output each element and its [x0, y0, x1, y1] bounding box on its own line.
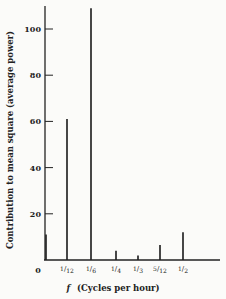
power-spectrum-chart: 20406080100 1/121/61/41/35/121/2 0 f (Cy…	[0, 0, 226, 299]
x-tick-label: 1/2	[178, 265, 188, 274]
spectral-bars	[46, 8, 183, 260]
y-tick-label: 100	[24, 24, 41, 34]
y-tick-label: 80	[30, 70, 42, 80]
x-axis-origin-label: 0	[35, 265, 41, 275]
y-axis-title: Contribution to mean square (average pow…	[5, 31, 15, 249]
y-tick-label: 40	[30, 163, 42, 173]
y-tick-label: 60	[30, 116, 42, 126]
x-axis-tick-labels: 1/121/61/41/35/121/2	[60, 265, 188, 274]
y-axis-ticks: 20406080100	[24, 24, 53, 219]
x-tick-label: 1/12	[60, 265, 74, 274]
y-tick-label: 20	[30, 209, 42, 219]
x-axis-units: (Cycles per hour)	[77, 283, 160, 293]
x-tick-label: 1/6	[86, 265, 96, 274]
x-axis-title: f (Cycles per hour)	[65, 283, 159, 293]
x-tick-label: 1/3	[133, 265, 143, 274]
x-tick-label: 1/4	[111, 265, 121, 274]
x-axis-variable: f	[65, 283, 71, 293]
x-tick-label: 5/12	[153, 265, 167, 274]
